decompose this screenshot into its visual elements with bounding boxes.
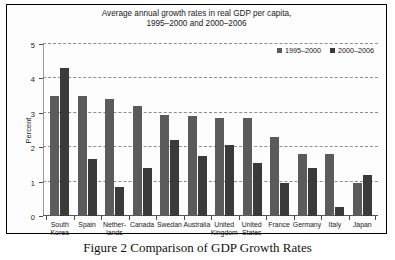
bar-series1 [270, 137, 279, 216]
x-tick-slot [74, 216, 102, 220]
x-tick [46, 216, 47, 220]
x-tick [375, 216, 376, 220]
y-tick-label-3: 3 [31, 109, 35, 118]
bar-series2 [335, 207, 344, 216]
x-tick [156, 216, 157, 220]
bar-series1 [105, 99, 114, 216]
bar-series1 [325, 154, 334, 216]
x-tick-slot [211, 216, 239, 220]
x-tick [321, 216, 322, 220]
y-tick-1: 1 [39, 182, 43, 183]
x-tick-slot [266, 216, 294, 220]
x-axis-label: Japan [349, 221, 376, 237]
plot-area: 012345 [43, 44, 378, 216]
bar-group [156, 44, 184, 216]
bar-group [349, 44, 377, 216]
x-axis-label: Spain [73, 221, 100, 237]
y-tick-2: 2 [39, 147, 43, 148]
bar-series2 [363, 175, 372, 216]
bar-group [211, 44, 239, 216]
chart-frame: Average annual growth rates in real GDP … [6, 4, 387, 234]
bar-series2 [170, 140, 179, 216]
bar-series2 [253, 163, 262, 216]
y-tick-3: 3 [39, 113, 43, 114]
bar-series1 [133, 106, 142, 216]
bar-group [184, 44, 212, 216]
x-tick-slot [46, 216, 74, 220]
x-tick [101, 216, 102, 220]
y-tick-label-4: 4 [31, 75, 35, 84]
x-axis-label: Swedan [156, 221, 183, 237]
x-axis-ticks [44, 216, 378, 220]
bar-group [266, 44, 294, 216]
bar-group [321, 44, 349, 216]
x-axis-label: South Korea [46, 221, 73, 237]
bar-group [294, 44, 322, 216]
bar-group [101, 44, 129, 216]
x-axis-label: United States [238, 221, 265, 237]
bar-group [129, 44, 157, 216]
bar-series2 [225, 145, 234, 216]
x-axis-label: United Kingdom [211, 221, 238, 237]
y-axis-title-text: Percent [24, 117, 33, 143]
bar-series-container [44, 44, 378, 216]
bar-series1 [298, 154, 307, 216]
x-tick [239, 216, 240, 220]
bar-series1 [78, 96, 87, 216]
bar-series2 [198, 156, 207, 216]
x-tick [211, 216, 212, 220]
x-tick [129, 216, 130, 220]
bar-group [74, 44, 102, 216]
x-axis-label: Germany [293, 221, 321, 237]
figure-container: Average annual growth rates in real GDP … [0, 0, 395, 260]
y-tick-4: 4 [39, 78, 43, 79]
x-tick-slot [349, 216, 377, 220]
x-tick-slot [101, 216, 129, 220]
x-tick-slot [321, 216, 349, 220]
y-axis-title: Percent [16, 44, 42, 216]
figure-caption: Figure 2 Comparison of GDP Growth Rates [0, 240, 395, 256]
bar-series2 [308, 168, 317, 216]
bar-series1 [160, 115, 169, 216]
bar-group [46, 44, 74, 216]
bar-series2 [88, 159, 97, 216]
bar-series1 [188, 116, 197, 216]
y-tick-label-0: 0 [31, 213, 35, 222]
y-tick-0: 0 [39, 216, 43, 217]
bar-series2 [60, 68, 69, 216]
x-tick-slot [239, 216, 267, 220]
bar-series2 [143, 168, 152, 216]
x-axis-label: Italy [321, 221, 348, 237]
x-tick [74, 216, 75, 220]
y-tick-5: 5 [39, 44, 43, 45]
chart-title: Average annual growth rates in real GDP … [7, 9, 386, 29]
x-axis-label: Canada [128, 221, 155, 237]
x-axis-label: Australia [183, 221, 210, 237]
y-tick-label-2: 2 [31, 144, 35, 153]
bar-series1 [50, 96, 59, 216]
bar-series1 [243, 118, 252, 216]
x-tick-slot [129, 216, 157, 220]
bar-series2 [280, 183, 289, 216]
x-axis-label: Nether- lands [101, 221, 128, 237]
x-tick-slot [184, 216, 212, 220]
x-axis-labels: South KoreaSpainNether- landsCanadaSweda… [44, 221, 378, 237]
y-tick-label-1: 1 [31, 178, 35, 187]
x-tick [294, 216, 295, 220]
x-tick [349, 216, 350, 220]
x-axis-label: France [265, 221, 292, 237]
y-tick-label-5: 5 [31, 41, 35, 50]
bar-series1 [353, 183, 362, 216]
bar-series2 [115, 187, 124, 216]
bar-group [239, 44, 267, 216]
bar-series1 [215, 118, 224, 216]
x-tick-slot [156, 216, 184, 220]
x-tick [184, 216, 185, 220]
x-tick-slot [294, 216, 322, 220]
x-tick [266, 216, 267, 220]
